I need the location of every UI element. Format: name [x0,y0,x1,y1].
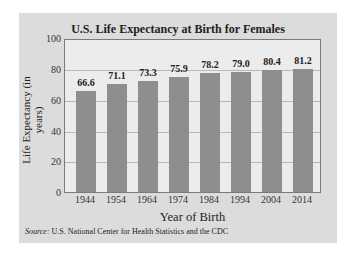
y-tick-80: 80 [39,64,61,75]
x-tick-1994: 1994 [223,194,257,205]
source-note: Source: U.S. National Center for Health … [25,227,228,236]
bar-1964 [138,81,158,192]
bar-1954 [107,84,127,192]
x-tick-1944: 1944 [68,194,102,205]
bar-2014 [293,69,313,192]
chart-title: U.S. Life Expectancy at Birth for Female… [19,22,337,37]
x-axis-label: Year of Birth [64,210,321,225]
y-tick-20: 20 [39,156,61,167]
x-tick-2004: 2004 [254,194,288,205]
x-tick-2014: 2014 [285,194,319,205]
y-tick-100: 100 [39,33,61,44]
y-tick-0: 0 [39,187,61,198]
bar-2004 [262,70,282,192]
bar-1984 [200,73,220,192]
x-tick-1984: 1984 [192,194,226,205]
chart-panel: U.S. Life Expectancy at Birth for Female… [19,13,337,243]
x-tick-1974: 1974 [161,194,195,205]
bar-value-label: 81.2 [283,55,323,66]
source-text: U.S. National Center for Health Statisti… [52,227,228,236]
x-tick-1954: 1954 [99,194,133,205]
plot-area: 66.671.173.375.978.279.080.481.2 [64,39,321,193]
source-label: Source: [25,227,50,236]
y-tick-40: 40 [39,126,61,137]
x-tick-1964: 1964 [130,194,164,205]
bar-1944 [76,91,96,192]
bar-1974 [169,77,189,192]
bar-1994 [231,72,251,192]
y-tick-60: 60 [39,95,61,106]
